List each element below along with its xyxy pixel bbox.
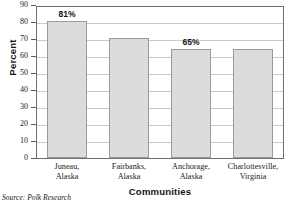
y-axis-tick-label: 20 bbox=[4, 120, 28, 128]
bar bbox=[109, 38, 149, 158]
bar bbox=[233, 49, 273, 158]
bar-series: 81%65% bbox=[36, 6, 284, 159]
bar-value-label: 81% bbox=[37, 9, 97, 19]
bar bbox=[47, 21, 87, 158]
x-axis-tick-label-line: Charlottesville, bbox=[214, 162, 288, 172]
y-axis-tick-label: 30 bbox=[4, 103, 28, 111]
y-axis-tick-label: 70 bbox=[4, 35, 28, 43]
x-axis-tick-label-line: Virginia bbox=[214, 172, 288, 182]
source-note: Source: Polk Research bbox=[2, 193, 71, 202]
y-axis-tick-label: 50 bbox=[4, 69, 28, 77]
x-axis-tick-labels: Juneau,AlaskaFairbanks,AlaskaAnchorage,A… bbox=[36, 162, 284, 188]
bar bbox=[171, 49, 211, 159]
x-axis-tick-label: Charlottesville,Virginia bbox=[214, 162, 288, 181]
bar-chart-figure: Percent 0102030405060708090 81%65% Junea… bbox=[0, 0, 288, 206]
x-axis-title: Communities bbox=[36, 186, 284, 197]
bar-value-label: 65% bbox=[161, 37, 221, 47]
y-axis-tick-label: 40 bbox=[4, 86, 28, 94]
y-axis-tick-label: 80 bbox=[4, 18, 28, 26]
y-axis-tick-label: 10 bbox=[4, 137, 28, 145]
y-axis-tick-label: 90 bbox=[4, 1, 28, 9]
y-axis-tick-label: 60 bbox=[4, 52, 28, 60]
y-axis-tick-label: 0 bbox=[4, 154, 28, 162]
